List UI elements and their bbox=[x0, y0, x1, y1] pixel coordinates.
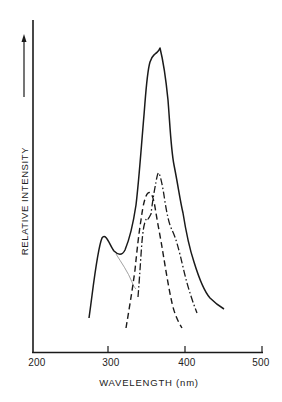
x-tick-label-300: 300 bbox=[102, 357, 119, 368]
solid-spectrum-line bbox=[89, 48, 224, 318]
thin-gray-line bbox=[116, 254, 136, 289]
y-axis-label: RELATIVE INTENSITY bbox=[19, 147, 30, 255]
x-tick-label-200: 200 bbox=[28, 357, 45, 368]
x-axis-label: WAVELENGTH (nm) bbox=[0, 377, 282, 388]
x-tick-label-400: 400 bbox=[178, 357, 195, 368]
up-arrow-icon bbox=[22, 34, 27, 97]
x-tick-label-500: 500 bbox=[252, 357, 269, 368]
spectrum-plot bbox=[0, 0, 282, 402]
